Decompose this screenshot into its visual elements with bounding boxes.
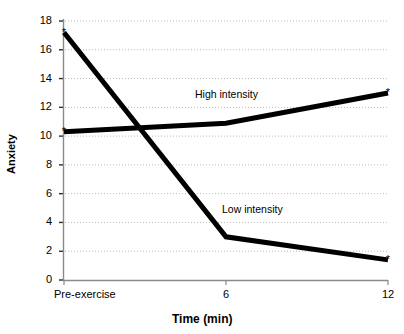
data-point-marker: *: [386, 86, 391, 98]
x-tick-label: Pre-exercise: [54, 288, 116, 300]
endpoint-markers-group: ****: [62, 26, 391, 265]
data-series-group: [64, 33, 388, 260]
y-tick-label: 18: [30, 14, 52, 26]
y-tick-label: 4: [30, 215, 52, 227]
cropped-caption-strip: [0, 327, 404, 334]
series-line-low-intensity: [64, 33, 388, 260]
y-tick-label: 2: [30, 244, 52, 256]
y-tick-label: 16: [30, 43, 52, 55]
data-point-marker: *: [62, 125, 67, 137]
x-axis-title: Time (min): [172, 312, 232, 326]
y-tick-label: 12: [30, 100, 52, 112]
data-point-marker: *: [386, 253, 391, 265]
y-axis-title: Anxiety: [5, 124, 17, 184]
y-tick-label: 6: [30, 187, 52, 199]
series-label-high-intensity: High intensity: [195, 88, 258, 100]
y-tick-label: 0: [30, 273, 52, 285]
anxiety-vs-time-line-chart: ****: [0, 0, 404, 334]
y-tick-label: 10: [30, 129, 52, 141]
gridlines-group: [65, 21, 388, 251]
figure-container: **** Anxiety Time (min) 181614121086420 …: [0, 0, 404, 334]
x-tick-label: 6: [223, 288, 229, 300]
y-tick-label: 8: [30, 158, 52, 170]
series-label-low-intensity: Low intensity: [222, 203, 283, 215]
y-tick-label: 14: [30, 72, 52, 84]
axis-ticks-group: [59, 21, 388, 285]
x-tick-label: 12: [382, 288, 394, 300]
data-point-marker: *: [62, 26, 67, 38]
